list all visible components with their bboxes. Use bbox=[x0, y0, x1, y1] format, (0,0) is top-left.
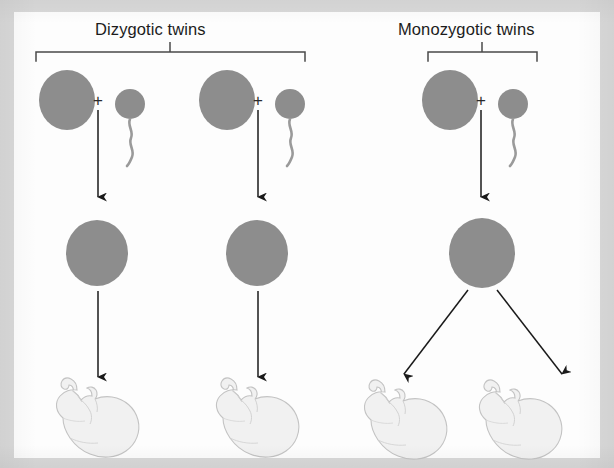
split-arrow-left bbox=[404, 290, 468, 374]
egg-cell bbox=[422, 70, 478, 130]
egg-cell bbox=[199, 70, 255, 130]
plus-sign: + bbox=[476, 92, 486, 109]
zygote-cell bbox=[66, 220, 128, 286]
split-arrow-right bbox=[497, 290, 562, 374]
group-label-monozygotic: Monozygotic twins bbox=[398, 21, 535, 38]
sperm-cell bbox=[498, 89, 528, 166]
plus-sign: + bbox=[93, 92, 103, 109]
sperm-cell bbox=[115, 89, 145, 166]
bracket-dizygotic bbox=[36, 42, 305, 61]
diagram-canvas bbox=[0, 0, 614, 468]
column-dizygotic-left bbox=[39, 70, 145, 457]
egg-cell bbox=[39, 70, 95, 130]
fetus bbox=[364, 380, 446, 459]
fetus bbox=[56, 378, 138, 457]
column-monozygotic bbox=[364, 70, 562, 459]
plus-sign: + bbox=[253, 92, 263, 109]
twin-formation-figure: Dizygotic twins Monozygotic twins + + + bbox=[0, 0, 614, 468]
sperm-cell bbox=[275, 89, 305, 166]
bracket-monozygotic bbox=[428, 42, 537, 61]
zygote-cell bbox=[226, 220, 288, 286]
fetus bbox=[216, 378, 298, 457]
zygote-cell bbox=[449, 218, 515, 288]
fetus bbox=[479, 380, 561, 459]
group-label-dizygotic: Dizygotic twins bbox=[95, 21, 206, 38]
column-dizygotic-right bbox=[199, 70, 305, 457]
